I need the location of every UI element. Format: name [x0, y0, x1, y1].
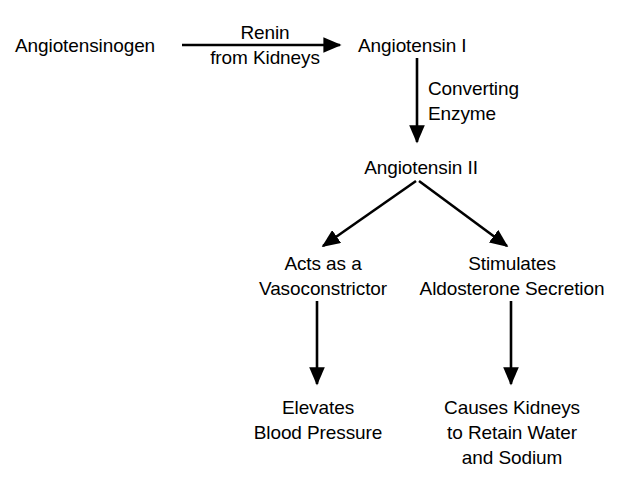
arrow-angiotensin2-to-vasoconstrictor — [323, 181, 416, 246]
arrow-angiotensin2-to-aldosterone — [419, 181, 507, 246]
node-angiotensinogen: Angiotensinogen — [15, 33, 147, 58]
node-vasoconstrictor-line-2: Vasoconstrictor — [243, 276, 403, 301]
edge-label-renin-line-2: from Kidneys — [187, 45, 343, 70]
node-angiotensin-ii-label: Angiotensin II — [356, 155, 486, 180]
node-aldosterone-line-2: Aldosterone Secretion — [408, 276, 616, 301]
edge-label-converting-line-2: Enzyme — [428, 101, 548, 126]
edge-label-converting-enzyme: Converting Enzyme — [428, 76, 548, 126]
node-angiotensin-i: Angiotensin I — [358, 33, 488, 58]
edge-label-renin-line-1: Renin — [187, 20, 343, 45]
edge-label-renin-from-kidneys: Renin from Kidneys — [187, 20, 343, 70]
edge-label-converting-line-1: Converting — [428, 76, 548, 101]
node-aldosterone-line-1: Stimulates — [408, 251, 616, 276]
node-angiotensin-ii: Angiotensin II — [356, 155, 486, 180]
node-acts-as-a-vasoconstrictor: Acts as a Vasoconstrictor — [243, 251, 403, 301]
node-retain-water-line-1: Causes Kidneys — [424, 395, 600, 420]
node-blood-pressure-line-2: Blood Pressure — [238, 420, 398, 445]
node-angiotensin-i-label: Angiotensin I — [358, 33, 488, 58]
node-stimulates-aldosterone-secretion: Stimulates Aldosterone Secretion — [408, 251, 616, 301]
node-retain-water-line-2: to Retain Water — [424, 420, 600, 445]
node-elevates-blood-pressure: Elevates Blood Pressure — [238, 395, 398, 445]
flowchart-diagram: Angiotensinogen Angiotensin I Angiotensi… — [0, 0, 635, 484]
node-blood-pressure-line-1: Elevates — [238, 395, 398, 420]
node-angiotensinogen-label: Angiotensinogen — [15, 33, 147, 58]
node-vasoconstrictor-line-1: Acts as a — [243, 251, 403, 276]
node-causes-kidneys-to-retain-water-and-sodium: Causes Kidneys to Retain Water and Sodiu… — [424, 395, 600, 470]
node-retain-water-line-3: and Sodium — [424, 445, 600, 470]
